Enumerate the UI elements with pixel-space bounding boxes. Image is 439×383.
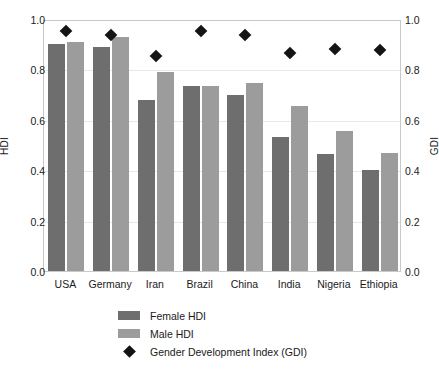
bar-male-hdi: [202, 86, 219, 271]
y-axis-label-left: HDI: [0, 126, 10, 166]
bar-female-hdi: [93, 47, 110, 271]
gdi-marker: [150, 50, 163, 63]
x-tick-label: USA: [55, 278, 77, 290]
y-tick-label-right: 1.0: [405, 15, 420, 26]
chart-figure: HDI GDI 0.00.20.40.60.81.00.00.20.40.60.…: [0, 0, 439, 383]
bar-female-hdi: [272, 137, 289, 271]
legend-color-swatch: [118, 329, 140, 338]
y-tick-label-right: 0.0: [405, 267, 420, 278]
y-tick-label-left: 0.6: [30, 116, 45, 127]
legend-label: Male HDI: [150, 328, 194, 340]
bar-male-hdi: [336, 131, 353, 271]
legend-label: Gender Development Index (GDI): [150, 346, 307, 358]
x-tick-label: Nigeria: [317, 278, 350, 290]
legend-item: Male HDI: [118, 327, 307, 340]
gdi-marker: [373, 44, 386, 57]
gdi-marker: [60, 25, 73, 38]
y-tick-label-left: 0.2: [30, 217, 45, 228]
gdi-marker: [284, 46, 297, 59]
bar-male-hdi: [291, 106, 308, 271]
x-tick-label: China: [231, 278, 258, 290]
y-tick-label-left: 0.8: [30, 65, 45, 76]
y-tick-label-left: 0.0: [30, 267, 45, 278]
x-tick-label: Brazil: [186, 278, 212, 290]
y-tick-label-left: 1.0: [30, 15, 45, 26]
y-tick-label-right: 0.4: [405, 166, 420, 177]
legend-item: Female HDI: [118, 309, 307, 322]
bar-female-hdi: [317, 154, 334, 271]
legend-item: Gender Development Index (GDI): [118, 345, 307, 358]
bar-female-hdi: [227, 95, 244, 271]
y-tick-label-right: 0.8: [405, 65, 420, 76]
gridline: [44, 20, 400, 21]
gdi-marker: [194, 25, 207, 38]
y-tick-label-left: 0.4: [30, 166, 45, 177]
x-tick-label: Germany: [89, 278, 132, 290]
bar-female-hdi: [48, 44, 65, 271]
legend-diamond-icon: [118, 346, 140, 357]
x-tick-label: India: [278, 278, 301, 290]
plot-area: [43, 20, 401, 272]
bar-male-hdi: [67, 42, 84, 271]
bar-female-hdi: [138, 100, 155, 271]
gdi-marker: [329, 42, 342, 55]
bar-male-hdi: [112, 37, 129, 271]
bar-male-hdi: [157, 72, 174, 271]
chart-legend: Female HDIMale HDIGender Development Ind…: [118, 309, 307, 358]
bar-female-hdi: [362, 170, 379, 271]
bar-female-hdi: [183, 86, 200, 271]
x-tick-label: Iran: [146, 278, 164, 290]
y-tick-label-right: 0.2: [405, 217, 420, 228]
gdi-marker: [239, 28, 252, 41]
bar-male-hdi: [246, 83, 263, 271]
bar-male-hdi: [381, 153, 398, 271]
y-axis-label-right: GDI: [429, 126, 439, 166]
legend-label: Female HDI: [150, 310, 206, 322]
legend-color-swatch: [118, 311, 140, 320]
diamond-icon: [123, 345, 136, 358]
x-tick-label: Ethiopia: [360, 278, 398, 290]
y-tick-label-right: 0.6: [405, 116, 420, 127]
